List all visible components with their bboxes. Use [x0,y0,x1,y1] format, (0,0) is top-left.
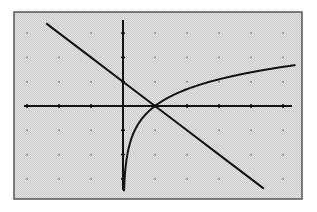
graph-plot [0,0,317,212]
